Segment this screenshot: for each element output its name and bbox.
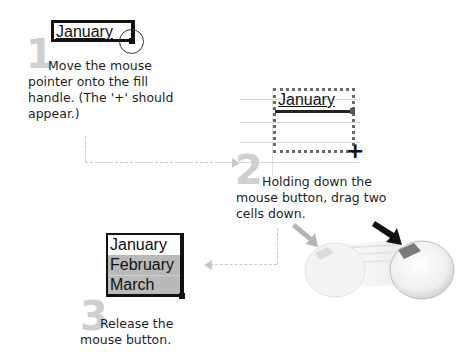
step-1-cell-text: January bbox=[56, 23, 113, 41]
connector-1-2-vertical bbox=[85, 136, 86, 162]
fill-handle-highlight-circle bbox=[119, 29, 144, 54]
step-1: January 1 Move the mouse pointer onto th… bbox=[0, 0, 230, 120]
fill-handle[interactable] bbox=[179, 293, 185, 299]
fill-handle-original bbox=[350, 108, 355, 114]
mouse-press-icon bbox=[290, 215, 471, 315]
cell-february: February bbox=[110, 256, 174, 274]
connector-2-3-vertical bbox=[277, 228, 278, 264]
connector-1-2-horizontal bbox=[85, 162, 233, 163]
cell-march: March bbox=[110, 276, 154, 294]
step-3-description: Release the mouse button. bbox=[80, 316, 200, 348]
step-3-range: January February March bbox=[106, 233, 184, 297]
mouse-illustration bbox=[290, 215, 471, 315]
crosshair-cursor-icon: + bbox=[346, 140, 364, 162]
step-2-cell-text: January bbox=[278, 91, 335, 109]
cell-january: January bbox=[110, 236, 167, 254]
step-1-description: Move the mouse pointer onto the fill han… bbox=[28, 58, 188, 122]
step-3: January February March 3 Release the mou… bbox=[80, 200, 230, 352]
step-2: January + 2 Holding down the mouse butto… bbox=[230, 70, 471, 220]
active-cell-bottom-border bbox=[275, 110, 351, 113]
